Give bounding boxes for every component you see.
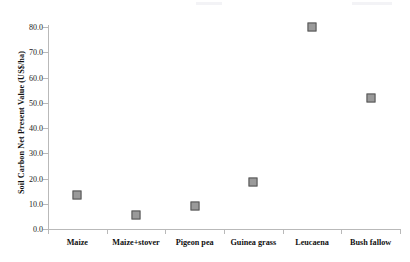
chart-figure: Soil Carbon Net Present Value (US$/ha) 0… <box>0 0 410 262</box>
y-tick-mark <box>43 128 48 129</box>
data-point-marker <box>249 178 258 187</box>
x-category-label: Maize <box>67 238 88 247</box>
y-tick-mark <box>43 153 48 154</box>
y-tick-label: 50.0 <box>29 98 43 107</box>
x-tick-mark <box>165 229 166 234</box>
x-category-label: Pigeon pea <box>176 238 214 247</box>
data-point-marker <box>308 23 317 32</box>
y-axis-title: Soil Carbon Net Present Value (US$/ha) <box>17 16 26 230</box>
y-tick-mark <box>43 179 48 180</box>
x-tick-mark <box>341 229 342 234</box>
scan-artifact-left <box>196 2 222 5</box>
data-point-marker <box>73 190 82 199</box>
y-tick-label: 30.0 <box>29 149 43 158</box>
x-category-label: Guinea grass <box>230 238 276 247</box>
y-tick-label: 60.0 <box>29 73 43 82</box>
y-tick-label: 10.0 <box>29 199 43 208</box>
y-tick-label: 70.0 <box>29 48 43 57</box>
y-tick-label: 0.0 <box>33 225 43 234</box>
y-tick-label: 40.0 <box>29 124 43 133</box>
data-point-marker <box>366 93 375 102</box>
x-tick-mark <box>224 229 225 234</box>
x-category-label: Maize+stover <box>112 238 159 247</box>
x-tick-mark <box>400 229 401 234</box>
x-tick-mark <box>107 229 108 234</box>
data-point-marker <box>190 202 199 211</box>
y-tick-mark <box>43 204 48 205</box>
y-tick-label: 20.0 <box>29 174 43 183</box>
data-point-marker <box>132 211 141 220</box>
scan-artifact-right <box>352 2 392 5</box>
y-tick-label: 80.0 <box>29 23 43 32</box>
x-axis-category-labels: MaizeMaize+stoverPigeon peaGuinea grassL… <box>48 238 400 254</box>
y-tick-mark <box>43 78 48 79</box>
plot-area: 0.010.020.030.040.050.060.070.080.0 <box>48 27 400 229</box>
x-tick-mark <box>48 229 49 234</box>
x-category-label: Bush fallow <box>350 238 391 247</box>
x-tick-mark <box>283 229 284 234</box>
y-tick-mark <box>43 52 48 53</box>
y-tick-mark <box>43 27 48 28</box>
y-tick-mark <box>43 103 48 104</box>
x-category-label: Leucaena <box>295 238 329 247</box>
